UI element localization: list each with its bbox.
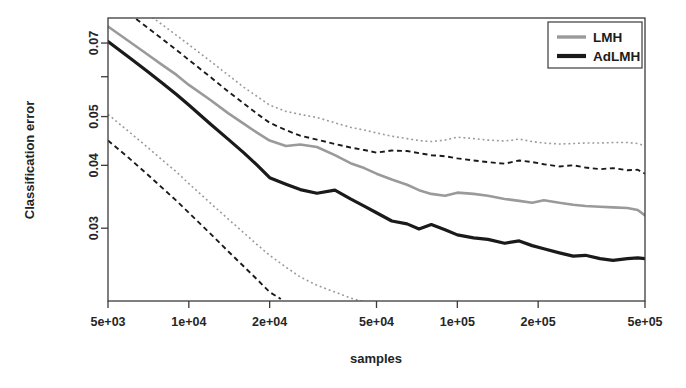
legend[interactable]: LMH AdLMH [548, 22, 642, 68]
x-tick-label: 2e+04 [252, 315, 287, 329]
x-tick-label: 5e+05 [627, 315, 662, 329]
chart-figure: 5e+031e+042e+045e+041e+052e+055e+05 0.07… [0, 0, 686, 388]
y-tick-label: 0.05 [88, 104, 102, 128]
y-axis-label: Classification error [22, 101, 37, 220]
x-tick-label: 5e+04 [359, 315, 394, 329]
classification-error-plot: 5e+031e+042e+045e+041e+052e+055e+05 0.07… [0, 0, 686, 388]
x-tick-label: 2e+05 [521, 315, 556, 329]
x-tick-label: 1e+04 [171, 315, 206, 329]
y-tick-label: 0.03 [88, 216, 102, 240]
legend-label-lmh: LMH [593, 30, 622, 45]
x-tick-label: 1e+05 [440, 315, 475, 329]
y-tick-label: 0.07 [88, 31, 102, 55]
legend-label-adlmh: AdLMH [593, 49, 640, 64]
y-tick-label: 0.04 [88, 153, 102, 177]
x-axis-label: samples [350, 351, 402, 366]
x-tick-label: 5e+03 [90, 315, 125, 329]
